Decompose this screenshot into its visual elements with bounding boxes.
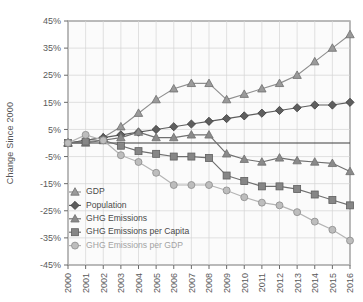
x-tick-label: 2003 [116,273,126,293]
y-tick-label: 15% [43,98,61,108]
data-point [188,182,195,189]
data-point [82,131,89,138]
y-tick-label: -45% [40,260,61,270]
data-point [206,182,213,189]
legend-item-ghg-emissions-per-gdp[interactable]: GHG Emissions per GDP [69,240,183,250]
legend-label: GHG Emissions per GDP [86,240,183,250]
data-point [117,142,124,149]
x-tick-label: 2007 [187,273,197,293]
data-point [294,186,301,193]
data-point [135,158,142,165]
data-point [329,196,336,203]
data-point [347,202,354,209]
x-axis-ticks: 2000200120022003200420052006200720082009… [63,265,355,293]
data-point [241,177,248,184]
data-point [100,137,107,144]
x-tick-label: 2014 [310,273,320,293]
data-point [347,237,354,244]
legend-label: GHG Emissions per Capita [86,226,189,236]
data-point [188,153,195,160]
legend-label: GDP [86,186,105,196]
data-point [329,226,336,233]
y-tick-label: -15% [40,179,61,189]
x-tick-label: 2013 [293,273,303,293]
data-point [294,209,301,216]
line-chart: 45%35%25%15%5%-5%-15%-25%-35%-45% 200020… [0,0,363,302]
x-tick-label: 2005 [152,273,162,293]
y-tick-label: -25% [40,206,61,216]
data-point [258,183,265,190]
x-tick-label: 2000 [63,273,73,293]
x-tick-label: 2010 [240,273,250,293]
x-tick-label: 2008 [204,273,214,293]
data-point [223,172,230,179]
data-point [223,187,230,194]
legend-item-ghg-emissions-per-capita[interactable]: GHG Emissions per Capita [69,226,189,236]
y-tick-label: 25% [43,70,61,80]
x-tick-label: 2001 [81,273,91,293]
data-point [153,150,160,157]
data-point [153,169,160,176]
y-tick-label: 5% [48,125,61,135]
x-tick-label: 2011 [257,273,267,292]
x-tick-label: 2015 [328,273,338,293]
y-tick-label: 45% [43,16,61,26]
data-point [311,218,318,225]
data-point [65,140,72,147]
data-point [276,183,283,190]
data-point [241,194,248,201]
legend-marker [72,229,79,236]
data-point [117,152,124,159]
legend-label: Population [86,200,127,210]
x-tick-label: 2016 [345,273,355,293]
data-point [206,154,213,161]
x-tick-label: 2002 [99,273,109,293]
legend-label: GHG Emissions [86,213,147,223]
chart-container: 45%35%25%15%5%-5%-15%-25%-35%-45% 200020… [0,0,363,302]
data-point [258,199,265,206]
data-point [170,182,177,189]
x-tick-label: 2012 [275,273,285,293]
legend-marker [72,242,79,249]
data-point [82,138,89,145]
data-point [276,202,283,209]
y-tick-label: 35% [43,43,61,53]
data-point [135,148,142,155]
y-axis-title: Change Since 2000 [5,102,15,184]
data-point [311,191,318,198]
x-tick-label: 2006 [169,273,179,293]
x-tick-label: 2009 [222,273,232,293]
data-point [170,153,177,160]
x-tick-label: 2004 [134,273,144,293]
y-tick-label: -35% [40,233,61,243]
y-tick-label: -5% [45,152,61,162]
